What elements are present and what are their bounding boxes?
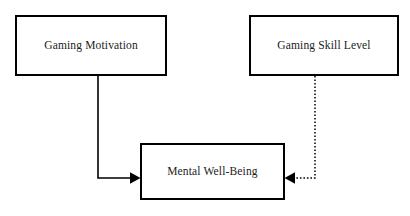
edge-skill-to-wellbeing-line xyxy=(295,76,315,178)
node-mental-well-being: Mental Well-Being xyxy=(140,143,285,200)
edge-motivation-to-wellbeing xyxy=(98,76,141,184)
node-gaming-motivation: Gaming Motivation xyxy=(15,15,167,76)
edge-skill-to-wellbeing xyxy=(285,76,316,184)
edge-motivation-to-wellbeing-line xyxy=(98,76,130,178)
node-gaming-skill-level-label: Gaming Skill Level xyxy=(277,40,370,52)
node-gaming-skill-level: Gaming Skill Level xyxy=(249,15,399,76)
edge-motivation-to-wellbeing-arrowhead xyxy=(130,172,141,184)
node-mental-well-being-label: Mental Well-Being xyxy=(167,166,258,178)
edge-skill-to-wellbeing-arrowhead xyxy=(285,172,296,184)
node-gaming-motivation-label: Gaming Motivation xyxy=(44,40,138,52)
diagram-canvas: Gaming Motivation Gaming Skill Level Men… xyxy=(0,0,410,216)
